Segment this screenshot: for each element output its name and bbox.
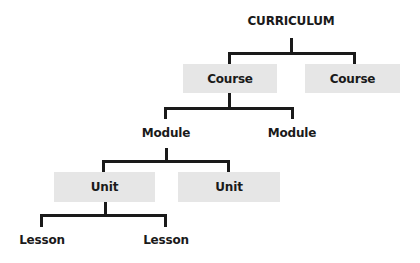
connector-line <box>102 160 105 172</box>
node-label: Lesson <box>19 233 65 247</box>
node-label: Unit <box>91 180 118 194</box>
node-unit-2: Unit <box>178 172 280 202</box>
connector-line <box>227 160 230 172</box>
node-label: Module <box>268 126 316 140</box>
connector-line <box>353 52 356 64</box>
connector-line <box>164 214 167 227</box>
node-label: Course <box>330 72 376 86</box>
node-module-1: Module <box>120 121 212 145</box>
node-label: Module <box>142 126 190 140</box>
connector-line <box>164 107 167 119</box>
node-lesson-2: Lesson <box>130 229 202 251</box>
node-course-2: Course <box>305 64 400 93</box>
node-label: Unit <box>215 180 242 194</box>
connector-line <box>228 52 231 64</box>
connector-line <box>40 214 43 227</box>
node-label: CURRICULUM <box>248 14 335 28</box>
connector-line <box>40 214 167 217</box>
node-lesson-1: Lesson <box>6 229 78 251</box>
node-module-2: Module <box>246 121 338 145</box>
node-label: Course <box>207 72 253 86</box>
connector-line <box>164 107 294 110</box>
connector-line <box>102 160 230 163</box>
connector-line <box>228 52 356 55</box>
node-unit-1: Unit <box>54 172 155 202</box>
node-label: Lesson <box>143 233 189 247</box>
node-curriculum: CURRICULUM <box>240 10 342 32</box>
connector-line <box>291 107 294 119</box>
node-course-1: Course <box>183 64 277 93</box>
